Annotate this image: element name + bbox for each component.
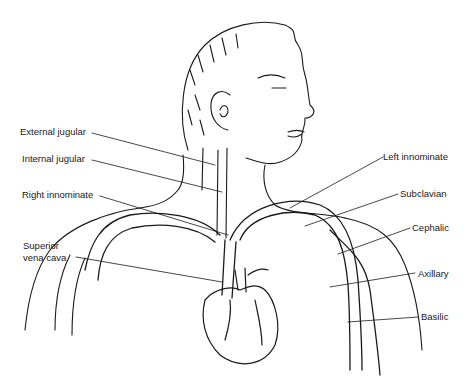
heart-drawing [203, 268, 278, 364]
head-drawing [182, 22, 313, 163]
leader-lines [76, 133, 418, 322]
label-basilic: Basilic [421, 311, 448, 322]
label-internal-jugular: Internal jugular [22, 153, 85, 164]
label-cephalic: Cephalic [412, 222, 449, 233]
label-superior-vena-cava-line1: Superior [23, 240, 59, 251]
anatomy-figure: External jugular Internal jugular Right … [0, 0, 471, 383]
label-subclavian: Subclavian [400, 188, 446, 199]
label-axillary: Axillary [418, 268, 449, 279]
label-left-innominate: Left innominate [383, 151, 448, 162]
label-external-jugular: External jugular [20, 126, 86, 137]
label-right-innominate: Right innominate [22, 189, 93, 200]
label-superior-vena-cava-line2: vena cava [23, 252, 66, 263]
neck-drawing [140, 148, 345, 238]
